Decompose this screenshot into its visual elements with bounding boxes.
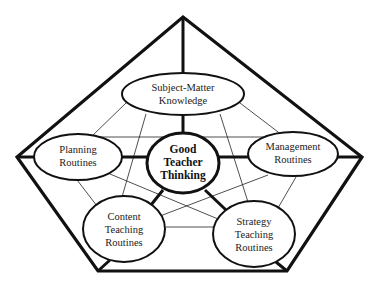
node-strategy-line-3: Routines (235, 242, 272, 253)
good-teacher-thinking-diagram: Subject-Matter Knowledge Planning Routin… (0, 0, 383, 286)
node-subject-ellipse (122, 73, 244, 115)
node-center: Good Teacher Thinking (147, 133, 219, 193)
node-subject: Subject-Matter Knowledge (122, 73, 244, 115)
node-center-line-1: Good (170, 143, 197, 155)
line-subject-planning (90, 103, 126, 138)
node-strategy-line-1: Strategy (237, 216, 273, 227)
node-planning: Planning Routines (34, 134, 122, 180)
node-management-line-1: Management (266, 141, 321, 152)
node-content-line-1: Content (107, 211, 140, 222)
node-subject-line-1: Subject-Matter (152, 82, 215, 93)
node-strategy: Strategy Teaching Routines (213, 201, 295, 267)
node-center-line-2: Teacher (163, 156, 202, 168)
node-management-line-2: Routines (274, 154, 311, 165)
node-planning-line-2: Routines (59, 157, 96, 168)
node-subject-line-2: Knowledge (159, 95, 208, 106)
node-content-line-2: Teaching (105, 224, 144, 235)
spoke-content-bottomleft (98, 260, 110, 271)
line-management-strategy (278, 177, 296, 208)
node-planning-line-1: Planning (59, 144, 97, 155)
node-content: Content Teaching Routines (83, 196, 165, 262)
spoke-center-strategy (205, 190, 226, 210)
line-subject-management (240, 103, 282, 135)
node-content-line-3: Routines (105, 237, 142, 248)
node-strategy-line-2: Teaching (235, 229, 274, 240)
node-management: Management Routines (248, 132, 338, 176)
node-center-line-3: Thinking (160, 169, 206, 182)
